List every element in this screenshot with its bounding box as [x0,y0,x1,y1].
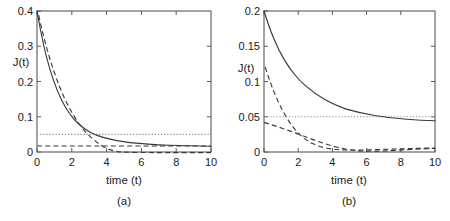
svg-text:2: 2 [295,156,301,168]
panel-caption-a: (a) [117,195,131,207]
dashed-decay-curve-a [39,15,211,153]
plot-svg-a: 0 0.1 0.2 0.3 0.4 0 2 4 6 8 10 J(t) time… [0,0,225,221]
x-axis-label-b: time (t) [331,174,367,186]
dashed-slow-curve-b [264,122,435,151]
svg-text:8: 8 [398,156,404,168]
svg-text:0.2: 0.2 [245,5,260,17]
svg-text:4: 4 [104,156,110,168]
x-tick-labels-a: 0 2 4 6 8 10 [34,156,217,168]
svg-text:8: 8 [173,156,179,168]
svg-text:0: 0 [261,156,267,168]
svg-text:0.15: 0.15 [239,40,260,52]
svg-text:4: 4 [329,156,335,168]
y-axis-label-b: J(t) [238,62,255,74]
plot-panel-a: 0 0.1 0.2 0.3 0.4 0 2 4 6 8 10 J(t) time… [0,0,225,221]
y-tick-labels-a: 0 0.1 0.2 0.3 0.4 [18,5,33,158]
svg-text:0: 0 [254,146,260,158]
svg-text:6: 6 [364,156,370,168]
y-tick-labels-b: 0 0.05 0.1 0.15 0.2 [239,5,260,158]
svg-text:0.3: 0.3 [18,40,33,52]
svg-text:0: 0 [27,146,33,158]
y-ticks-a [37,11,211,152]
svg-text:10: 10 [429,156,441,168]
svg-text:0.1: 0.1 [245,76,260,88]
svg-text:0.4: 0.4 [18,5,33,17]
svg-text:0: 0 [34,156,40,168]
dashed-fast-curve-b [265,67,435,150]
svg-text:0.05: 0.05 [239,111,260,123]
figure-container: 0 0.1 0.2 0.3 0.4 0 2 4 6 8 10 J(t) time… [0,0,450,221]
x-ticks-a [37,11,211,152]
x-tick-labels-b: 0 2 4 6 8 10 [261,156,441,168]
svg-text:10: 10 [205,156,217,168]
axis-frame-a [37,11,211,152]
svg-text:0.1: 0.1 [18,111,33,123]
plot-panel-b: 0 0.05 0.1 0.15 0.2 0 2 4 6 8 10 J(t) ti… [225,0,450,221]
x-axis-label-a: time (t) [106,174,142,186]
solid-curve-b [264,11,435,121]
panel-caption-b: (b) [342,195,356,207]
svg-text:6: 6 [138,156,144,168]
svg-text:2: 2 [69,156,75,168]
svg-text:0.2: 0.2 [18,76,33,88]
solid-curve-a [37,11,211,146]
y-axis-label-a: J(t) [13,56,30,68]
plot-svg-b: 0 0.05 0.1 0.15 0.2 0 2 4 6 8 10 J(t) ti… [225,0,450,221]
